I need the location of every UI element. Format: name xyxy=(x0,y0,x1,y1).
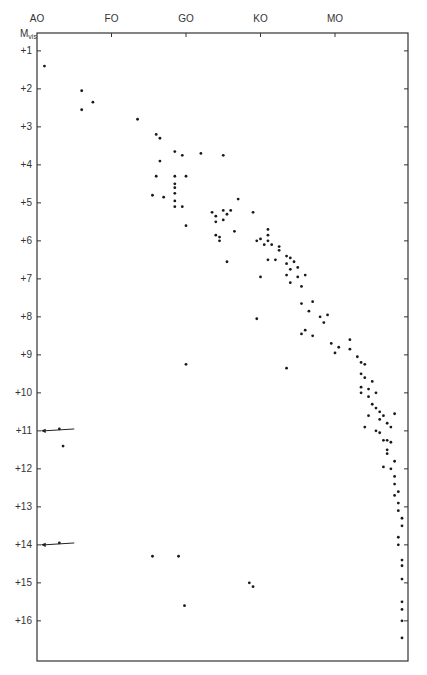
data-point xyxy=(363,426,366,429)
data-point xyxy=(263,243,266,246)
data-point xyxy=(386,448,389,451)
x-tick-label: MO xyxy=(327,13,343,24)
y-tick-label: +7 xyxy=(21,273,33,284)
data-point xyxy=(155,175,158,178)
data-point xyxy=(349,348,352,351)
data-point xyxy=(401,578,404,581)
y-tick-label: +16 xyxy=(15,615,32,626)
data-point xyxy=(226,260,229,263)
data-point xyxy=(173,200,176,203)
data-point xyxy=(337,346,340,349)
data-point xyxy=(367,388,370,391)
data-point xyxy=(311,300,314,303)
data-point xyxy=(80,108,83,111)
data-point xyxy=(386,422,389,425)
data-point xyxy=(218,236,221,239)
data-point xyxy=(393,412,396,415)
data-point xyxy=(367,395,370,398)
data-point xyxy=(363,363,366,366)
data-point xyxy=(80,89,83,92)
data-point xyxy=(285,255,288,258)
data-point xyxy=(393,483,396,486)
data-point xyxy=(322,321,325,324)
data-point xyxy=(62,445,65,448)
data-point xyxy=(304,274,307,277)
data-point xyxy=(382,466,385,469)
data-point xyxy=(177,555,180,558)
data-point xyxy=(151,194,154,197)
x-tick-label: KO xyxy=(253,13,268,24)
data-point xyxy=(185,363,188,366)
data-point xyxy=(185,224,188,227)
data-point xyxy=(173,175,176,178)
data-point xyxy=(237,198,240,201)
data-point xyxy=(397,536,400,539)
data-point xyxy=(386,439,389,442)
data-point xyxy=(222,154,225,157)
data-point xyxy=(267,228,270,231)
y-tick-label: +15 xyxy=(15,577,32,588)
data-point xyxy=(289,281,292,284)
data-point xyxy=(296,276,299,279)
x-tick-label: AO xyxy=(30,13,45,24)
data-point xyxy=(181,205,184,208)
data-point xyxy=(259,238,262,241)
y-tick-label: +4 xyxy=(21,159,33,170)
plot-frame xyxy=(37,33,408,661)
data-point xyxy=(159,160,162,163)
data-point xyxy=(229,209,232,212)
data-point xyxy=(360,372,363,375)
data-point xyxy=(200,152,203,155)
y-tick-label: +2 xyxy=(21,83,33,94)
data-point xyxy=(349,338,352,341)
data-point xyxy=(185,175,188,178)
data-point xyxy=(330,342,333,345)
data-point xyxy=(270,243,273,246)
data-point xyxy=(397,490,400,493)
data-point xyxy=(319,315,322,318)
data-point xyxy=(183,604,186,607)
data-point xyxy=(311,334,314,337)
data-point xyxy=(393,475,396,478)
data-point xyxy=(401,600,404,603)
x-tick-label: FO xyxy=(105,13,119,24)
data-point xyxy=(226,213,229,216)
data-point xyxy=(252,585,255,588)
data-points xyxy=(43,65,403,640)
data-point xyxy=(300,333,303,336)
data-point xyxy=(389,426,392,429)
y-tick-label: +13 xyxy=(15,501,32,512)
y-tick-label: +14 xyxy=(15,539,32,550)
y-tick-label: +3 xyxy=(21,121,33,132)
data-point xyxy=(300,285,303,288)
data-point xyxy=(162,196,165,199)
data-point xyxy=(389,441,392,444)
data-point xyxy=(386,452,389,455)
data-point xyxy=(356,355,359,358)
data-point xyxy=(378,418,381,421)
data-point xyxy=(218,239,221,242)
y-axis-title-text: Mvis xyxy=(20,28,37,40)
y-tick-label: +6 xyxy=(21,235,33,246)
data-point xyxy=(401,637,404,640)
data-point xyxy=(378,410,381,413)
data-point xyxy=(389,467,392,470)
data-point xyxy=(267,258,270,261)
data-point xyxy=(360,386,363,389)
data-point xyxy=(222,209,225,212)
data-point xyxy=(211,211,214,214)
annotations xyxy=(41,429,75,547)
y-tick-label: +10 xyxy=(15,387,32,398)
data-point xyxy=(214,215,217,218)
data-point xyxy=(296,266,299,269)
data-point xyxy=(363,376,366,379)
data-point xyxy=(278,249,281,252)
data-point xyxy=(401,517,404,520)
data-point xyxy=(278,245,281,248)
data-point xyxy=(255,239,258,242)
data-point xyxy=(360,391,363,394)
data-point xyxy=(375,391,378,394)
data-point xyxy=(155,133,158,136)
data-point xyxy=(304,329,307,332)
data-point xyxy=(393,460,396,463)
